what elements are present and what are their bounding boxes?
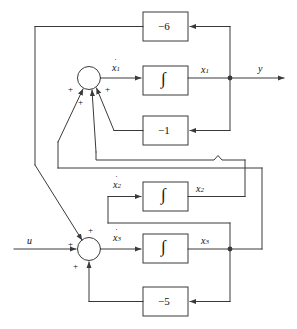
wire-gain1-diagonal-to-sum-top — [97, 88, 115, 131]
signal-x1dot: ˙ x1 — [112, 63, 120, 73]
sum-top-sign-right: + — [105, 85, 110, 94]
node-dot-x3 — [228, 247, 233, 252]
signal-y: y — [258, 64, 262, 74]
sum-bottom-circle — [78, 238, 101, 261]
gain-neg5-label: −5 — [158, 296, 170, 307]
sum-top-sign-lower: + — [78, 98, 83, 107]
gain-neg1-label: −1 — [158, 125, 170, 136]
signal-x3-sub: 3 — [205, 238, 209, 246]
sum-bottom-sign-left: + — [68, 240, 73, 249]
integrator-x1-label: ∫ — [161, 70, 166, 87]
sum-bottom-sign-top: + — [88, 226, 93, 235]
sum-top-circle — [78, 67, 101, 90]
wire-x2-into-sum-top — [92, 90, 96, 152]
gain-neg6-label: −6 — [158, 21, 170, 32]
signal-x2dot: ˙ x2 — [113, 180, 121, 190]
node-dot-x1 — [228, 76, 233, 81]
wire-x2-to-sum-top-horizontal — [96, 152, 245, 160]
signal-u: u — [27, 236, 32, 246]
wire-gain6-diagonal-to-sum-bottom — [35, 165, 82, 240]
block-diagram-svg — [0, 0, 297, 329]
signal-x1-sub: 1 — [205, 67, 209, 75]
sum-bottom-sign-bottom: + — [73, 262, 78, 271]
integrator-x2-label: ∫ — [161, 186, 166, 203]
signal-x2: x2 — [196, 184, 204, 194]
sum-top-sign-left: + — [68, 85, 73, 94]
integrator-x3-label: ∫ — [161, 238, 166, 255]
signal-x3: x3 — [201, 236, 209, 246]
figure-canvas: −6 ∫ −1 ∫ ∫ −5 ˙ x1 x1 y ˙ x2 x2 ˙ x3 x3… — [0, 0, 297, 329]
signal-x2-sub: 2 — [200, 186, 204, 194]
signal-x1: x1 — [201, 65, 209, 75]
signal-x3dot: ˙ x3 — [113, 233, 121, 243]
